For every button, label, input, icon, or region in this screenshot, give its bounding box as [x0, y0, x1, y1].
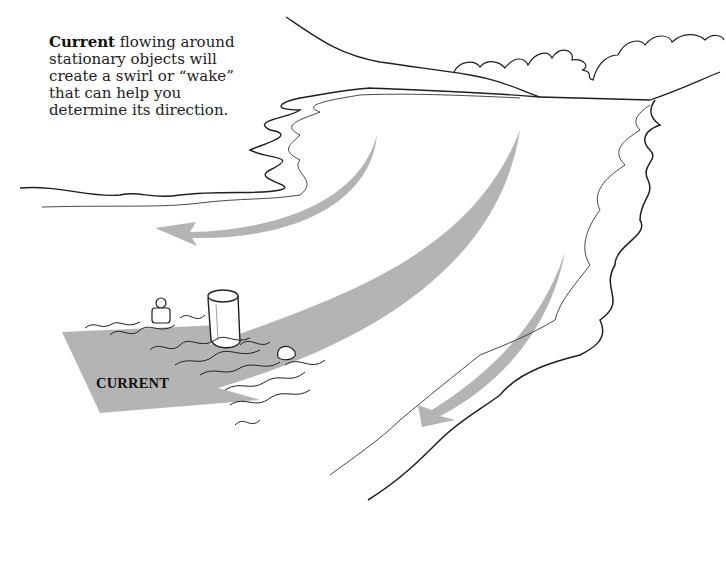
hill-line [286, 17, 720, 100]
buoy-left [152, 298, 170, 323]
caption: Current flowing around stationary object… [49, 34, 249, 119]
main-current-arrow [62, 130, 520, 413]
right-shore [368, 100, 660, 500]
clouds [454, 35, 724, 80]
illustration: Current flowing around stationary object… [0, 0, 726, 561]
upper-current-arrow [155, 135, 377, 246]
buoy-right [278, 346, 296, 359]
caption-bold: Current [49, 33, 115, 51]
current-label: CURRENT [96, 375, 169, 392]
